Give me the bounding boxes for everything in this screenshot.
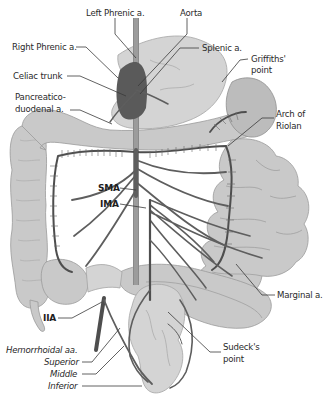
label-aorta: Aorta (180, 8, 202, 18)
anatomy-diagram: Left Phrenic a. Aorta Right Phrenic a. S… (0, 0, 331, 402)
label-right-phrenic: Right Phrenic a. (12, 42, 77, 52)
label-splenic: Splenic a. (202, 43, 242, 53)
label-marginal: Marginal a. (277, 290, 323, 300)
label-celiac: Celiac trunk (13, 71, 62, 81)
label-middle: Middle (50, 369, 77, 379)
label-sma: SMA (98, 183, 120, 193)
label-pancreatico-1: Pancreatico- (15, 92, 66, 102)
label-inferior: Inferior (48, 381, 78, 391)
label-griffiths-1: Griffiths' (251, 54, 286, 64)
label-sudeck-1: Sudeck's (223, 342, 260, 352)
label-ima: IMA (100, 199, 119, 209)
rectum (129, 284, 185, 393)
ascending-colon (10, 125, 49, 331)
label-left-phrenic: Left Phrenic a. (86, 8, 144, 18)
label-sudeck-2: point (223, 354, 245, 364)
label-griffiths-2: point (251, 65, 273, 75)
diagram-canvas: Left Phrenic a. Aorta Right Phrenic a. S… (0, 0, 331, 402)
cecum (41, 259, 122, 304)
label-arch-2: Riolan (276, 121, 302, 131)
label-pancreatico-2: duodenal a. (15, 104, 64, 114)
label-arch-1: Arch of (276, 109, 306, 119)
label-iia: IIA (43, 313, 56, 323)
label-hemorrhoidal: Hemorrhoidal aa. (6, 345, 77, 355)
label-superior: Superior (44, 357, 79, 367)
